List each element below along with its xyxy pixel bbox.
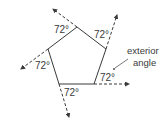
pentagon-exterior-angles-diagram: 72° 72° 72° 72° 72° exterior angle bbox=[0, 0, 164, 125]
annotation-angle: angle bbox=[133, 57, 156, 68]
angle-label-top: 72° bbox=[54, 24, 69, 35]
angle-label-right: 72° bbox=[94, 29, 109, 40]
angle-label-bottom-right: 72° bbox=[100, 72, 115, 83]
angle-label-bottom-left: 72° bbox=[64, 87, 79, 98]
annotation-pointer-dot bbox=[113, 68, 115, 70]
angle-label-left: 72° bbox=[35, 60, 50, 71]
annotation-pointer-line bbox=[115, 59, 128, 68]
annotation-exterior: exterior bbox=[127, 45, 159, 56]
